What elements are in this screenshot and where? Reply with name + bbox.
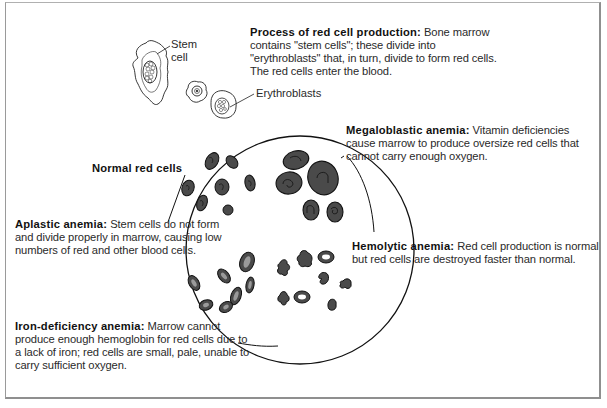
- pointer-megaloblastic-tick: [341, 156, 344, 158]
- section-title: Process of red cell production:: [250, 26, 421, 38]
- hemolytic-cells: [278, 251, 352, 311]
- stem-cell-icon: [133, 41, 170, 105]
- stem-cell-label: Stem cell: [171, 38, 197, 64]
- iron-deficiency-cells: [186, 250, 257, 315]
- section-title: Megaloblastic anemia:: [346, 124, 470, 136]
- normal-red-cells: [180, 150, 257, 215]
- section-megaloblastic: Megaloblastic anemia: Vitamin deficienci…: [346, 124, 596, 163]
- section-hemolytic: Hemolytic anemia: Red cell production is…: [352, 240, 600, 266]
- section-iron-deficiency: Iron-deficiency anemia: Marrow cannot pr…: [15, 320, 255, 372]
- pointer-normal: [168, 175, 185, 222]
- section-production: Process of red cell production: Bone mar…: [250, 26, 500, 78]
- section-title: Hemolytic anemia:: [352, 240, 454, 252]
- section-title: Iron-deficiency anemia:: [15, 320, 145, 332]
- section-title: Normal red cells: [92, 162, 182, 174]
- section-normal: Normal red cells: [92, 162, 182, 175]
- section-aplastic: Aplastic anemia: Stem cells do not form …: [15, 218, 225, 257]
- section-title: Aplastic anemia:: [15, 218, 107, 230]
- erythroblast-icon: [211, 91, 254, 119]
- erythroblasts-label: Erythroblasts: [256, 87, 321, 100]
- megaloblastic-cells: [274, 148, 343, 222]
- pointer-hemolytic: [347, 156, 374, 232]
- erythroblast-icon: [186, 81, 207, 102]
